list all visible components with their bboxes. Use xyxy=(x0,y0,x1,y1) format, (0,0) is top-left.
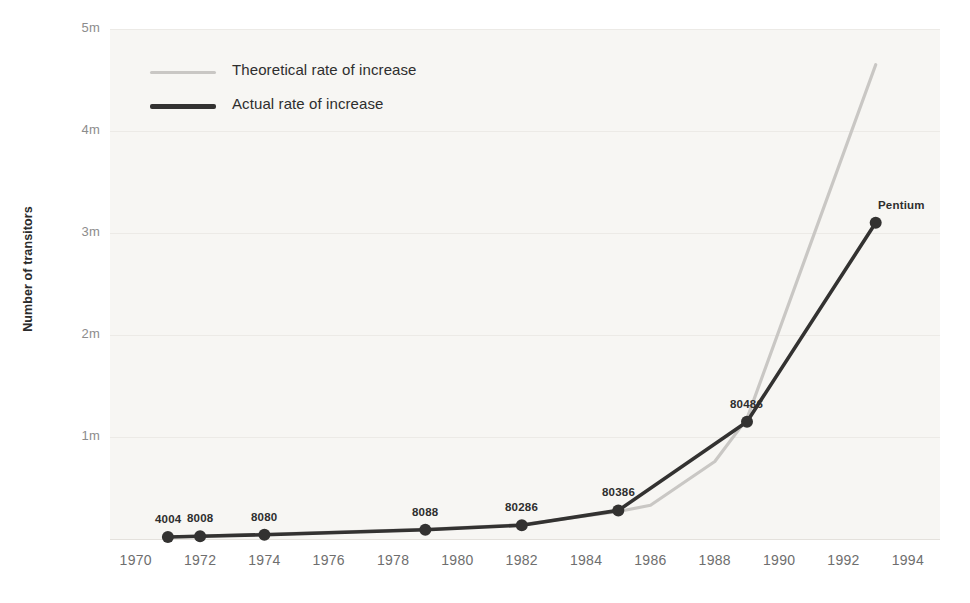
series-plot xyxy=(0,0,970,603)
data-point-label: 80386 xyxy=(602,486,635,498)
data-point-label: 8080 xyxy=(251,511,277,523)
data-point-marker xyxy=(162,531,174,543)
data-point-marker xyxy=(258,529,270,541)
data-point-marker xyxy=(741,416,753,428)
data-point-marker xyxy=(419,524,431,536)
legend-label: Actual rate of increase xyxy=(232,95,384,112)
actual-line xyxy=(168,223,876,537)
data-point-marker xyxy=(612,504,624,516)
legend-swatch-icon xyxy=(150,71,216,74)
data-point-marker xyxy=(516,519,528,531)
data-point-label: 8088 xyxy=(412,506,438,518)
data-point-label: 8008 xyxy=(187,512,213,524)
data-point-marker xyxy=(194,530,206,542)
data-point-label: 80286 xyxy=(505,501,538,513)
data-point-label: 4004 xyxy=(155,513,181,525)
legend-swatch-icon xyxy=(150,104,216,109)
data-point-label: Pentium xyxy=(878,199,925,211)
chart-root: 1m2m3m4m5m 19701972197419761978198019821… xyxy=(0,0,970,603)
data-point-marker xyxy=(870,217,882,229)
legend-label: Theoretical rate of increase xyxy=(232,61,417,78)
data-point-label: 80486 xyxy=(730,398,763,410)
theoretical-line xyxy=(168,65,876,537)
